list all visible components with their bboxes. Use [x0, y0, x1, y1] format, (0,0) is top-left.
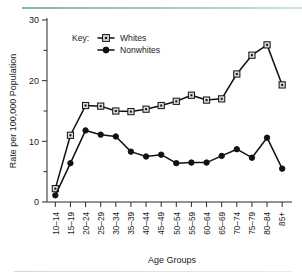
data-point-marker-center: [206, 99, 208, 101]
data-point-marker-center: [190, 94, 192, 96]
data-point-marker-nonwhites: [234, 147, 239, 152]
y-axis-title: Rate per 100,000 Population: [8, 54, 18, 169]
data-point-marker-nonwhites: [204, 160, 209, 165]
data-point-marker-nonwhites: [83, 128, 88, 133]
y-axis-tick-label: 0: [34, 197, 39, 207]
x-axis-tick-label: 85+: [278, 212, 287, 226]
x-axis-tick-label: 40–44: [142, 212, 151, 235]
x-axis-title: Age Groups: [148, 255, 197, 265]
chart-figure: 0102030 10–1415–1920–2425–2930–3435–3940…: [0, 0, 302, 278]
data-point-marker-nonwhites: [264, 135, 269, 140]
x-axis-tick-label: 25–29: [97, 212, 106, 235]
series-line-nonwhites: [55, 130, 282, 195]
data-point-marker-center: [236, 73, 238, 75]
data-point-marker-center: [115, 110, 117, 112]
data-point-marker-center: [281, 84, 283, 86]
legend-square-dot-icon: [105, 37, 107, 39]
data-point-marker-center: [145, 108, 147, 110]
data-point-marker-nonwhites: [53, 193, 58, 198]
data-point-marker-center: [160, 105, 162, 107]
data-point-marker-nonwhites: [113, 134, 118, 139]
data-point-marker-center: [251, 54, 253, 56]
legend-entry-label: Nonwhites: [120, 45, 160, 55]
data-point-marker-center: [175, 100, 177, 102]
data-point-marker-nonwhites: [189, 160, 194, 165]
x-axis-tick-label: 30–34: [112, 212, 121, 235]
line-chart-plot: 0102030 10–1415–1920–2425–2930–3435–3940…: [0, 0, 302, 278]
data-point-marker-center: [85, 105, 87, 107]
x-axis-tick-label: 80–84: [263, 212, 272, 235]
data-point-marker-nonwhites: [279, 166, 284, 171]
legend-circle-icon: [103, 47, 109, 53]
chart-series-group: [52, 42, 285, 198]
data-point-marker-nonwhites: [68, 160, 73, 165]
legend-entry-label: Whites: [120, 33, 146, 43]
x-axis-tick-label: 50–54: [173, 212, 182, 235]
x-axis-tick-label: 70–74: [233, 212, 242, 235]
x-axis-tick-label: 55–59: [188, 212, 197, 235]
y-axis-tick-label: 30: [29, 15, 39, 25]
bottom-divider-rule: [14, 271, 292, 272]
top-divider-rule: [22, 7, 302, 9]
data-point-marker-center: [69, 134, 71, 136]
series-line-whites: [55, 45, 282, 189]
data-point-marker-nonwhites: [98, 132, 103, 137]
data-point-marker-nonwhites: [249, 155, 254, 160]
x-axis-tick-label: 65–69: [218, 212, 227, 235]
data-point-marker-nonwhites: [219, 153, 224, 158]
x-axis-tick-label: 10–14: [52, 212, 61, 235]
y-axis-tick-label: 20: [29, 76, 39, 86]
legend-key-label: Key:: [72, 33, 89, 43]
data-point-marker-center: [54, 188, 56, 190]
data-point-marker-center: [221, 98, 223, 100]
x-axis-tick-label: 60–64: [203, 212, 212, 235]
x-axis-tick-label: 75–79: [248, 212, 257, 235]
x-axis: 10–1415–1920–2425–2930–3435–3940–4445–49…: [47, 202, 292, 235]
x-axis-tick-label: 45–49: [157, 212, 166, 235]
data-point-marker-nonwhites: [158, 152, 163, 157]
y-axis-tick-label: 10: [29, 137, 39, 147]
chart-legend: Key:WhitesNonwhites: [72, 33, 160, 55]
data-point-marker-center: [266, 44, 268, 46]
x-axis-tick-label: 15–19: [67, 212, 76, 235]
data-point-marker-center: [100, 105, 102, 107]
x-axis-tick-label: 35–39: [127, 212, 136, 235]
data-point-marker-nonwhites: [128, 149, 133, 154]
data-point-marker-nonwhites: [143, 154, 148, 159]
x-axis-tick-label: 20–24: [82, 212, 91, 235]
y-axis: 0102030: [29, 15, 47, 207]
data-point-marker-nonwhites: [174, 160, 179, 165]
data-point-marker-center: [130, 111, 132, 113]
